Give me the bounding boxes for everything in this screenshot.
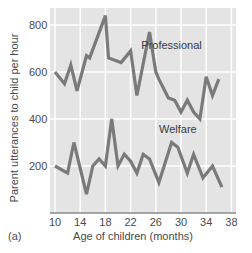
series-label-professional: Professional	[141, 39, 202, 51]
y-tick-label: 400	[29, 113, 47, 125]
x-tick-label: 14	[74, 216, 86, 228]
line-chart: 200400600800 1014182226303438 Profession…	[0, 0, 252, 253]
x-axis-ticks: 1014182226303438	[49, 216, 238, 228]
series-label-welfare: Welfare	[159, 123, 197, 135]
y-tick-label: 800	[29, 19, 47, 31]
y-tick-label: 200	[29, 160, 47, 172]
panel-label: (a)	[8, 230, 21, 242]
x-tick-label: 30	[175, 216, 187, 228]
x-tick-label: 10	[49, 216, 61, 228]
x-axis-label: Age of children (months)	[73, 230, 193, 242]
x-tick-label: 38	[225, 216, 237, 228]
y-tick-label: 600	[29, 66, 47, 78]
x-tick-label: 26	[150, 216, 162, 228]
x-tick-label: 22	[124, 216, 136, 228]
y-axis-label: Parent utterances to child per hour	[8, 33, 20, 202]
y-axis-ticks: 200400600800	[29, 19, 47, 172]
x-tick-label: 34	[200, 216, 212, 228]
x-tick-label: 18	[99, 216, 111, 228]
